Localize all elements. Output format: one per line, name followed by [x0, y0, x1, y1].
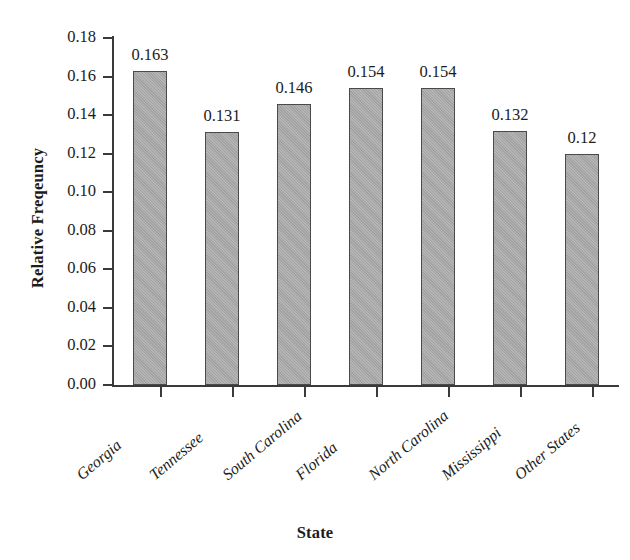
bar: [565, 154, 599, 385]
y-axis-tick: [103, 268, 113, 270]
y-axis-title: Relative Freqeuncy: [28, 108, 48, 328]
bar-chart: Relative Freqeuncy 0.180.160.140.120.100…: [0, 0, 630, 560]
y-axis-tick: [103, 345, 113, 347]
x-axis-tick: [160, 387, 162, 397]
y-axis-tick-label: 0.06: [40, 258, 96, 278]
x-axis-line: [112, 385, 619, 387]
bar-value-label: 0.132: [470, 105, 550, 125]
y-axis-tick: [103, 153, 113, 155]
bar-value-label: 0.12: [542, 128, 622, 148]
y-axis-tick-label: 0.02: [40, 335, 96, 355]
y-axis-tick: [103, 191, 113, 193]
x-axis-category-label: Florida: [292, 439, 341, 484]
y-axis-tick: [103, 114, 113, 116]
y-axis-tick-label: 0.00: [40, 374, 96, 394]
x-axis-category-label: Mississippi: [438, 424, 505, 484]
x-axis-category-label: South Carolina: [219, 407, 305, 484]
y-axis-tick-label: 0.16: [40, 66, 96, 86]
bar: [421, 88, 455, 385]
y-axis-tick-label: 0.08: [40, 220, 96, 240]
y-axis-tick-label: 0.12: [40, 143, 96, 163]
bar: [277, 104, 311, 385]
x-axis-category-label: Georgia: [73, 436, 125, 484]
y-axis-tick-label: 0.18: [40, 27, 96, 47]
x-axis-title: State: [0, 523, 630, 543]
bar-value-label: 0.154: [326, 62, 406, 82]
bar: [349, 88, 383, 385]
x-axis-category-label: Other States: [511, 419, 584, 484]
bar: [493, 131, 527, 385]
bar-value-label: 0.146: [254, 78, 334, 98]
x-axis-category-label: Tennessee: [146, 429, 207, 484]
y-axis-tick: [103, 307, 113, 309]
x-axis-tick: [376, 387, 378, 397]
y-axis-tick: [103, 384, 113, 386]
y-axis-tick: [103, 37, 113, 39]
bar-value-label: 0.154: [398, 62, 478, 82]
y-axis-tick: [103, 230, 113, 232]
x-axis-tick: [592, 387, 594, 397]
x-axis-tick: [520, 387, 522, 397]
x-axis-tick: [232, 387, 234, 397]
y-axis-line: [112, 36, 114, 387]
bar: [205, 132, 239, 385]
y-axis-tick-label: 0.04: [40, 297, 96, 317]
y-axis-tick-label: 0.10: [40, 181, 96, 201]
y-axis-tick: [103, 76, 113, 78]
x-axis-tick: [448, 387, 450, 397]
bar: [133, 71, 167, 385]
bar-value-label: 0.163: [110, 45, 190, 65]
y-axis-tick-label: 0.14: [40, 104, 96, 124]
x-axis-tick: [304, 387, 306, 397]
bar-value-label: 0.131: [182, 106, 262, 126]
